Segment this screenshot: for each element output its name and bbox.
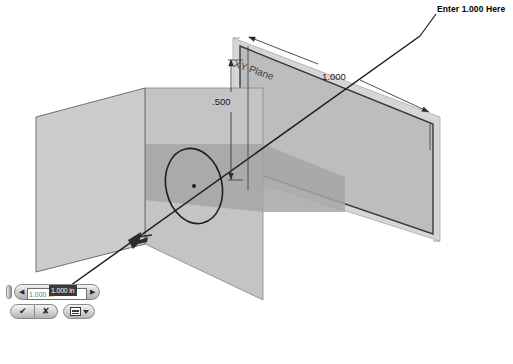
plane-middle[interactable] (145, 88, 263, 300)
drag-grip-icon[interactable] (6, 285, 12, 299)
chevron-down-icon (83, 310, 89, 314)
spin-up-button[interactable]: ▶ (88, 286, 97, 298)
close-icon: ✘ (42, 307, 50, 316)
callout-label: Enter 1.000 Here (437, 4, 505, 14)
dimension-height-value[interactable]: .500 (212, 96, 231, 107)
modify-button-row[interactable]: ✔ ✘ (10, 304, 95, 319)
dimension-width-value[interactable]: 1.000 (322, 71, 346, 82)
modify-dimension-dialog[interactable]: ◀ 1.000 in ▶ ✔ ✘ (6, 283, 98, 329)
sketch-circle-center-point[interactable] (192, 184, 196, 188)
check-icon: ✔ (19, 307, 27, 316)
dimension-value-input[interactable] (27, 288, 87, 300)
options-dropdown-button[interactable] (63, 304, 95, 319)
modify-value-row[interactable]: ◀ 1.000 in ▶ (6, 283, 100, 300)
spin-down-button[interactable]: ◀ (17, 286, 26, 298)
accept-button[interactable]: ✔ (10, 304, 35, 319)
cad-screenshot: Enter 1.000 Here 1.000 .500 XY Plane ◀ 1… (0, 0, 513, 364)
cancel-button[interactable]: ✘ (35, 304, 58, 319)
callout-leader-line (420, 14, 436, 36)
list-icon (70, 307, 81, 316)
dimension-spinbox[interactable]: ◀ 1.000 in ▶ (14, 284, 100, 300)
